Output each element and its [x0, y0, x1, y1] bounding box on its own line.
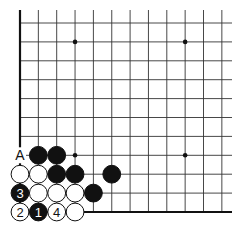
move-number: 2	[16, 205, 23, 220]
white-stone	[66, 184, 84, 202]
black-stone	[29, 146, 47, 164]
stone-circle	[48, 165, 66, 183]
black-stone	[48, 165, 66, 183]
move-number: 3	[16, 186, 23, 201]
stone-circle	[66, 184, 84, 202]
stone-circle	[66, 165, 84, 183]
star-point	[73, 40, 78, 45]
stone-circle	[48, 184, 66, 202]
star-point	[183, 40, 188, 45]
stone-circle	[103, 165, 121, 183]
point-labels: A	[14, 147, 26, 163]
black-stone	[48, 146, 66, 164]
black-stone	[66, 165, 84, 183]
stone-circle	[29, 184, 47, 202]
stone-circle	[11, 165, 29, 183]
stones: 3214	[11, 146, 121, 221]
stone-circle	[66, 203, 84, 221]
stone-circle	[85, 184, 103, 202]
go-board: 3214 A	[0, 0, 239, 239]
black-stone: 3	[11, 184, 29, 202]
star-point	[73, 153, 78, 158]
move-number: 1	[35, 205, 42, 220]
white-stone: 4	[48, 203, 66, 221]
move-number: 4	[53, 205, 60, 220]
stone-circle	[29, 146, 47, 164]
black-stone	[85, 184, 103, 202]
black-stone	[103, 165, 121, 183]
white-stone	[11, 165, 29, 183]
white-stone	[29, 165, 47, 183]
white-stone	[29, 184, 47, 202]
star-point	[183, 153, 188, 158]
white-stone	[48, 184, 66, 202]
stone-circle	[48, 146, 66, 164]
white-stone	[66, 203, 84, 221]
white-stone: 2	[11, 203, 29, 221]
black-stone: 1	[29, 203, 47, 221]
point-label: A	[15, 147, 25, 163]
stone-circle	[29, 165, 47, 183]
